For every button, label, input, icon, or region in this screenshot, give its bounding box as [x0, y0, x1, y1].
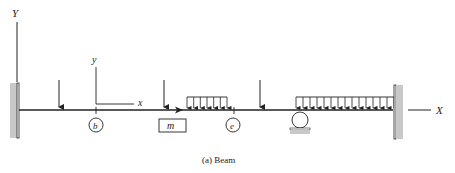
- left-fixed-wall: [10, 83, 19, 138]
- node-b: b: [89, 107, 103, 132]
- local-y-label: y: [91, 54, 97, 65]
- mass-label: m: [167, 120, 174, 131]
- beam-diagram: Y y x b m: [0, 0, 455, 173]
- right-fixed-wall: [394, 85, 403, 139]
- local-axes: y x: [91, 54, 143, 108]
- node-b-label: b: [93, 121, 98, 131]
- local-x-label: x: [137, 97, 143, 108]
- distributed-load-2: [296, 97, 394, 108]
- global-y-label: Y: [12, 7, 20, 19]
- figure-caption: (a) Beam: [202, 155, 235, 165]
- global-x-label: X: [435, 104, 444, 116]
- global-y-axis: Y: [12, 7, 20, 82]
- distributed-load-1: [187, 97, 227, 108]
- node-e: e: [226, 107, 240, 132]
- mass-element: m: [159, 119, 186, 132]
- global-x-axis: X: [408, 104, 444, 116]
- roller-support: [290, 112, 310, 134]
- node-e-label: e: [230, 121, 234, 131]
